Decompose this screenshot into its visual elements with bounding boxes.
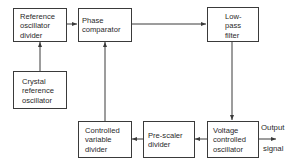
block-reference-oscillator-divider: Reference oscillator divider [13, 8, 67, 42]
block-pre-scaler-divider: Pre-scaler divider [143, 121, 195, 158]
output-label: Output [261, 123, 284, 132]
block-label: Phase comparator [82, 16, 120, 35]
block-phase-comparator: Phase comparator [78, 8, 132, 42]
block-voltage-controlled-oscillator: Voltage controlled oscillator [207, 121, 259, 158]
block-low-pass-filter: Low- pass filter [207, 7, 259, 42]
block-label: Voltage controlled oscillator [213, 126, 246, 154]
block-crystal-reference-oscillator: Crystal reference oscillator [13, 71, 67, 109]
block-controlled-variable-divider: Controlled variable divider [78, 121, 132, 158]
block-label: Low- pass filter [225, 12, 241, 40]
block-label: Pre-scaler divider [148, 131, 183, 150]
signal-label: signal [263, 144, 283, 153]
block-label: Crystal reference oscillator [22, 77, 54, 105]
block-label: Reference oscillator divider [20, 12, 55, 40]
block-label: Controlled variable divider [85, 126, 120, 154]
